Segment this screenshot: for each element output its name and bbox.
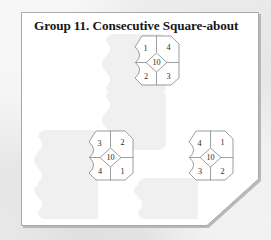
puzzle-top-cell-top-right: 4 (166, 43, 170, 52)
page-title: Group 11. Consecutive Square-about (34, 18, 238, 34)
puzzle-bottom-left-center-value: 10 (106, 153, 114, 162)
puzzle-top-cell-top-left: 1 (143, 44, 147, 53)
puzzle-top-center-value: 10 (152, 58, 160, 67)
puzzle-bottom-left-cell-top-left: 3 (97, 139, 101, 148)
puzzle-bottom-left-cell-top-right: 2 (120, 138, 124, 147)
puzzle-figure-bottom-right[interactable]: 4 1 3 2 10 (181, 129, 239, 183)
puzzle-sheet: Group 11. Consecutive Square-about 1 4 2… (21, 12, 259, 226)
puzzle-top-cell-bottom-right: 3 (166, 72, 170, 81)
puzzle-bottom-left-cell-bottom-left: 4 (98, 167, 102, 176)
page-root: Group 11. Consecutive Square-about 1 4 2… (0, 0, 271, 240)
puzzle-bottom-right-cell-top-left: 4 (197, 139, 201, 148)
puzzle-bottom-right-center-value: 10 (206, 153, 214, 162)
puzzle-bottom-right-cell-bottom-left: 3 (198, 167, 202, 176)
puzzle-bottom-left-cell-bottom-right: 1 (120, 167, 124, 176)
puzzle-bottom-right-cell-bottom-right: 2 (220, 167, 224, 176)
puzzle-top-cell-bottom-left: 2 (144, 72, 148, 81)
puzzle-figure-bottom-left[interactable]: 3 2 4 1 10 (81, 129, 139, 183)
puzzle-figure-top[interactable]: 1 4 2 3 10 (127, 34, 185, 88)
puzzle-bottom-right-cell-top-right: 1 (220, 138, 224, 147)
